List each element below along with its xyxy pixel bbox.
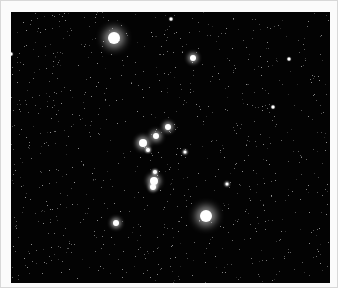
faint-star (31, 20, 32, 21)
faint-star (327, 184, 328, 185)
faint-star (32, 97, 33, 98)
faint-star (192, 18, 193, 19)
faint-star (237, 221, 238, 222)
faint-star (83, 165, 84, 166)
faint-star (180, 84, 181, 85)
faint-star (47, 106, 48, 107)
faint-star (180, 148, 181, 149)
faint-star (142, 89, 143, 90)
faint-star (234, 168, 235, 169)
faint-star (184, 100, 185, 101)
faint-star (48, 145, 49, 146)
faint-star (15, 170, 16, 171)
faint-star (327, 191, 328, 192)
faint-star (122, 277, 123, 278)
faint-star (102, 56, 103, 57)
faint-star (282, 20, 283, 21)
faint-star (47, 205, 48, 206)
faint-star (102, 236, 103, 237)
faint-star (174, 124, 175, 125)
faint-star (308, 185, 309, 186)
faint-star (298, 40, 299, 41)
faint-star (35, 105, 36, 106)
faint-star (233, 70, 234, 71)
faint-star (64, 87, 65, 88)
faint-star (275, 173, 276, 174)
faint-star (44, 16, 45, 17)
faint-star (299, 162, 300, 163)
faint-star (176, 32, 177, 33)
faint-star (281, 140, 282, 141)
faint-star (143, 197, 144, 198)
faint-star (326, 214, 327, 215)
faint-star (224, 157, 225, 158)
faint-star (151, 134, 152, 135)
faint-star (35, 13, 36, 14)
faint-star (157, 237, 158, 238)
faint-star (322, 163, 323, 164)
faint-star (53, 66, 54, 67)
faint-star (31, 158, 32, 159)
faint-star (35, 213, 36, 214)
faint-star (230, 173, 231, 174)
faint-star (101, 52, 102, 53)
faint-star (143, 71, 144, 72)
star (153, 170, 157, 174)
faint-star (231, 264, 232, 265)
faint-star (88, 57, 89, 58)
faint-star (29, 82, 30, 83)
faint-star (157, 74, 158, 75)
faint-star (135, 171, 136, 172)
faint-star (63, 235, 64, 236)
faint-star (63, 38, 64, 39)
faint-star (305, 58, 306, 59)
faint-star (30, 24, 31, 25)
faint-star (284, 256, 285, 257)
faint-star (313, 257, 314, 258)
faint-star (190, 196, 191, 197)
faint-star (306, 159, 307, 160)
faint-star (170, 184, 171, 185)
faint-star (107, 208, 108, 209)
faint-star (174, 77, 175, 78)
faint-star (53, 100, 54, 101)
faint-star (242, 171, 243, 172)
faint-star (256, 231, 257, 232)
faint-star (321, 35, 322, 36)
faint-star (74, 182, 75, 183)
faint-star (245, 211, 246, 212)
faint-star (89, 132, 90, 133)
faint-star (60, 65, 61, 66)
faint-star (57, 52, 58, 53)
faint-star (13, 183, 14, 184)
faint-star (207, 158, 208, 159)
faint-star (41, 172, 42, 173)
faint-star (20, 111, 21, 112)
faint-star (50, 219, 51, 220)
faint-star (62, 176, 63, 177)
faint-star (316, 100, 317, 101)
faint-star (73, 124, 74, 125)
faint-star (114, 203, 115, 204)
faint-star (265, 105, 266, 106)
faint-star (49, 170, 50, 171)
faint-star (248, 213, 249, 214)
faint-star (248, 155, 249, 156)
faint-star (297, 84, 298, 85)
faint-star (291, 129, 292, 130)
faint-star (102, 46, 103, 47)
faint-star (123, 65, 124, 66)
faint-star (279, 271, 280, 272)
faint-star (177, 206, 178, 207)
faint-star (52, 107, 53, 108)
faint-star (92, 39, 93, 40)
faint-star (29, 148, 30, 149)
faint-star (263, 205, 264, 206)
faint-star (39, 187, 40, 188)
faint-star (119, 40, 120, 41)
faint-star (183, 178, 184, 179)
faint-star (18, 237, 19, 238)
faint-star (263, 144, 264, 145)
faint-star (110, 179, 111, 180)
faint-star (13, 149, 14, 150)
